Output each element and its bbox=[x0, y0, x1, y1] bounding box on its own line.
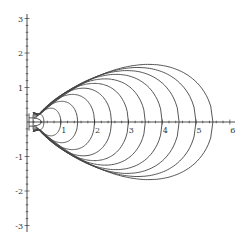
x-tick-label: 3 bbox=[129, 126, 134, 135]
tick-labels-group: 123456-3-2-1123 bbox=[15, 15, 235, 231]
y-tick-label: 2 bbox=[18, 49, 23, 58]
y-tick-label: -1 bbox=[15, 153, 23, 162]
x-tick-label: 1 bbox=[61, 126, 66, 135]
x-tick-label: 5 bbox=[196, 126, 201, 135]
y-tick-label: 3 bbox=[18, 15, 23, 24]
y-tick-label: -3 bbox=[15, 222, 23, 231]
x-tick-label: 6 bbox=[230, 126, 235, 135]
x-tick-label: 2 bbox=[95, 126, 100, 135]
x-tick-label: 4 bbox=[163, 126, 168, 135]
y-tick-label: 1 bbox=[18, 84, 23, 93]
axes-group bbox=[27, 14, 235, 232]
y-tick-label: -2 bbox=[15, 187, 23, 196]
chart: 123456-3-2-1123 bbox=[0, 0, 247, 245]
